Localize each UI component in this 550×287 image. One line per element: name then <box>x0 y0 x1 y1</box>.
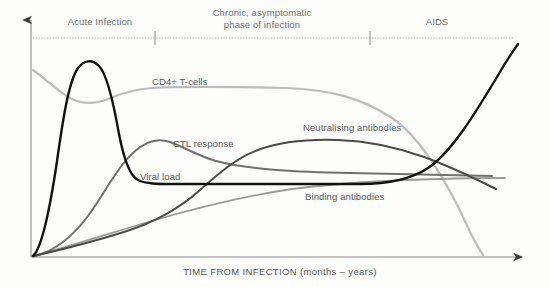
phase-label-chronic-line1: Chronic, asymptomatic <box>213 7 312 18</box>
label-cd4-t-cells: CD4+ T-cells <box>152 76 208 87</box>
label-viral-load: Viral load <box>140 171 180 182</box>
label-neutralising-antibodies: Neutralising antibodies <box>303 122 402 133</box>
label-ctl-response: CTL response <box>173 138 234 149</box>
phase-label-acute-infection: Acute Infection <box>68 16 132 27</box>
phase-label-chronic-line2: phase of infection <box>224 19 300 30</box>
phase-label-aids: AIDS <box>426 16 449 27</box>
hiv-infection-timecourse-chart: Acute Infection Chronic, asymptomatic ph… <box>0 0 550 287</box>
x-axis-title: TIME FROM INFECTION (months – years) <box>183 266 377 277</box>
label-binding-antibodies: Binding antibodies <box>305 191 385 202</box>
